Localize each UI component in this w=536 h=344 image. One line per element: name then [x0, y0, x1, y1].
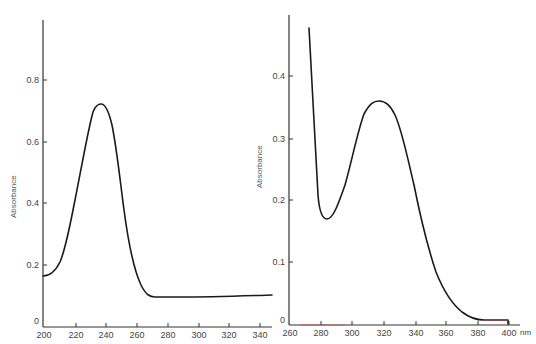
right-chart	[289, 15, 520, 325]
figure: 0.8 0.6 0.4 0.2 0 Absorbance 200 220 240…	[0, 0, 536, 344]
left-chart	[43, 20, 272, 327]
left-spectrum-curve	[43, 104, 272, 297]
charts-canvas	[0, 0, 536, 344]
right-spectrum-curve	[309, 28, 508, 324]
